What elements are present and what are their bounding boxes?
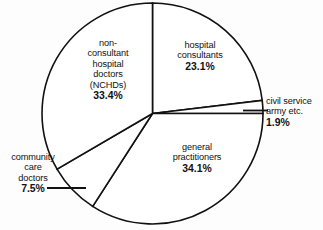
slice-label-line: doctors bbox=[66, 69, 150, 79]
slice-label-line: civil service bbox=[266, 96, 323, 106]
slice-label-line: army etc. bbox=[266, 106, 323, 116]
slice-label-line: practitioners bbox=[152, 152, 242, 162]
slice-label-line: consultants bbox=[158, 50, 242, 60]
slice-label-community-care: community care doctors 7.5% bbox=[0, 152, 66, 195]
slice-label-line: hospital bbox=[66, 59, 150, 69]
slice-label-general-practitioners: general practitioners 34.1% bbox=[152, 142, 242, 175]
slice-percent-value: 23.1% bbox=[158, 61, 242, 73]
slice-percent-value: 7.5% bbox=[0, 183, 66, 195]
slice-label-nchds: non- consultant hospital doctors (NCHDs)… bbox=[66, 38, 150, 102]
slice-label-line: doctors bbox=[0, 173, 66, 183]
slice-label-line: community bbox=[0, 152, 66, 162]
slice-label-line: care bbox=[0, 162, 66, 172]
slice-label-line: hospital bbox=[158, 40, 242, 50]
slice-percent-value: 34.1% bbox=[152, 163, 242, 175]
slice-label-hospital-consultants: hospital consultants 23.1% bbox=[158, 40, 242, 73]
slice-label-line: (NCHDs) bbox=[66, 80, 150, 90]
pie-slice-group bbox=[42, 3, 263, 224]
slice-percent-value: 1.9% bbox=[266, 117, 323, 129]
slice-percent-value: 33.4% bbox=[66, 90, 150, 102]
slice-label-civil-service: civil service army etc. 1.9% bbox=[266, 96, 323, 129]
slice-label-line: general bbox=[152, 142, 242, 152]
pie-chart-figure: hospital consultants 23.1% non- consulta… bbox=[0, 0, 323, 230]
slice-label-line: consultant bbox=[66, 48, 150, 58]
slice-label-line: non- bbox=[66, 38, 150, 48]
